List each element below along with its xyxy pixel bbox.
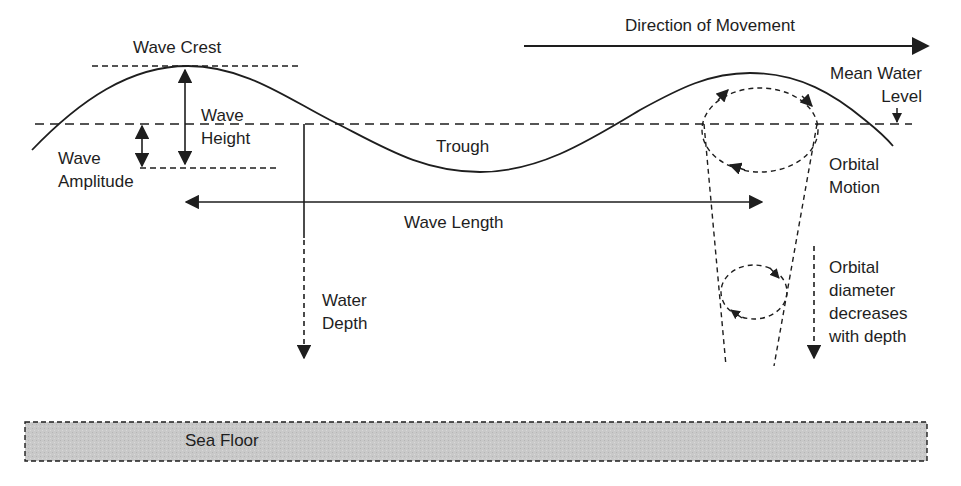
- wave-amplitude-label: Wave Amplitude: [58, 147, 134, 193]
- orbital-motion-label: Orbital Motion: [829, 153, 880, 199]
- orbital-diameter-label: Orbital diameter decreases with depth: [829, 256, 907, 348]
- orbital-circle-small: [721, 265, 787, 319]
- direction-of-movement-label: Direction of Movement: [625, 15, 795, 37]
- orbital-circle-large: [702, 88, 818, 172]
- orbital-cone-right: [774, 124, 817, 366]
- sea-floor-label: Sea Floor: [185, 430, 259, 452]
- sea-floor-block: [25, 422, 927, 461]
- wave-diagram: [0, 0, 961, 486]
- wave-length-label: Wave Length: [404, 212, 504, 234]
- orbital-cone-left: [704, 124, 726, 366]
- water-depth-label: Water Depth: [322, 289, 367, 335]
- trough-label: Trough: [436, 136, 489, 158]
- wave-height-label: Wave Height: [201, 104, 250, 150]
- mean-water-level-label: Mean Water Level: [830, 62, 922, 108]
- wave-crest-label: Wave Crest: [133, 37, 221, 59]
